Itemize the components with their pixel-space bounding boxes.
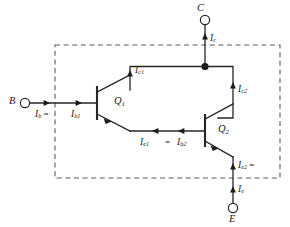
device-label-q1: Q1 [114,96,125,107]
arrow-ie [230,186,236,192]
ib1-subscript: b1 [74,112,80,119]
q2-subscript: 2 [226,128,229,135]
ie2-equals: = [247,160,254,170]
current-label-ie: Ie [238,185,244,195]
q1-collector-slant [97,75,130,92]
q2-emitter-slant [205,141,233,157]
arrow-ie1 [152,128,158,134]
current-label-ib1: Ib1 [71,110,80,120]
terminal-label-c: C [197,3,204,14]
arrow-ic2 [230,82,236,88]
current-label-ic2: Ic2 [238,85,247,95]
arrow-ib1 [76,100,82,106]
ic1-subscript: c1 [138,68,144,75]
ic2-subscript: c2 [241,87,247,94]
arrow-ib2 [178,128,184,134]
wire-q2-collector [205,67,233,119]
current-label-ib2: Ib2 [177,138,186,148]
ic-subscript: c [213,36,216,43]
terminal-emitter-circle [228,203,237,212]
current-label-ib: Ib = [35,110,49,120]
arrow-ib [44,100,50,106]
q1-emitter-slant [97,114,130,131]
current-label-ie2: Ie2 = [238,161,254,171]
ib-equals: = [41,109,48,119]
current-label-ic1: Ic1 [135,66,144,76]
terminal-base-circle [20,98,29,107]
device-label-q2: Q2 [218,124,229,135]
q2-symbol: Q [218,123,226,134]
terminal-label-b: B [9,96,15,107]
arrow-ie2 [230,163,236,169]
current-label-ic: Ic [210,34,216,44]
ie1-subscript: e1 [143,140,149,147]
q1-symbol: Q [114,95,122,106]
ib2-subscript: b2 [180,140,186,147]
arrow-ic [202,33,208,39]
circuit-diagram: C B E Q1 Q2 Ic Ic1 Ic2 Ib = Ib1 Ie1 = Ib… [0,0,290,227]
terminal-collector-circle [200,15,209,24]
current-equals-sign: = [165,138,170,148]
device-boundary-dashed-box [55,45,280,178]
terminal-label-e: E [229,214,235,225]
equals-symbol: = [165,137,170,147]
q2-collector-slant [205,104,233,119]
ie-subscript: e [241,187,244,194]
current-label-ie1: Ie1 [140,138,149,148]
q1-subscript: 1 [122,100,125,107]
